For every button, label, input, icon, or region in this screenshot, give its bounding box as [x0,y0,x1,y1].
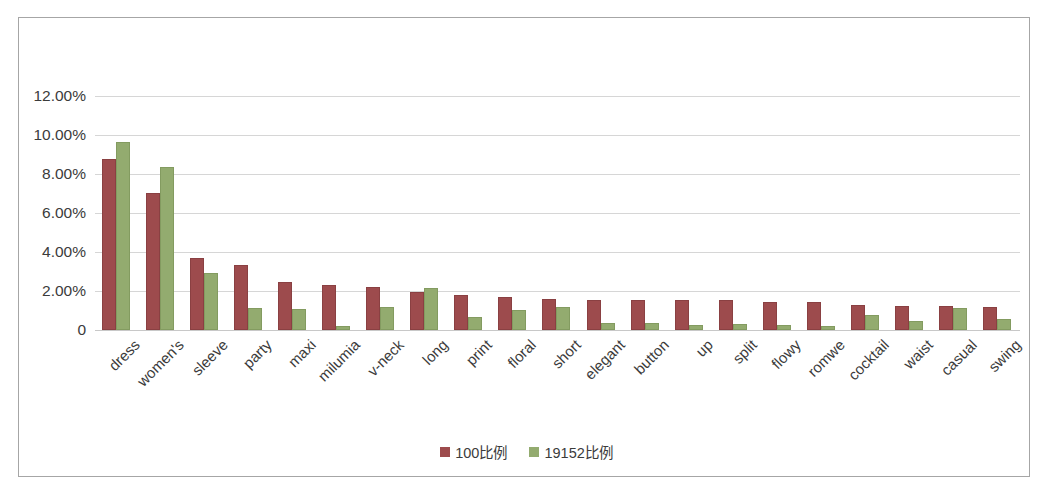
x-axis-tick-label: cocktail [844,336,891,383]
bar[interactable] [556,307,570,330]
bar-group [756,96,800,330]
y-axis-tick-label: 6.00% [20,204,86,222]
x-axis-tick-label: short [548,336,584,372]
bar[interactable] [102,159,116,330]
bar-group [403,96,447,330]
bar-group [800,96,844,330]
x-axis-tick-label: elegant [581,336,628,383]
x-axis-tick-label: v-neck [364,336,407,379]
x-axis-tick-label: casual [937,336,980,379]
x-axis-tick-label: split [729,336,760,367]
x-axis-tick-label: romwe [804,336,848,380]
bar-group [580,96,624,330]
legend-label: 19152比例 [544,441,612,462]
y-axis-tick-label: 4.00% [20,243,86,261]
bar[interactable] [454,295,468,330]
bar[interactable] [645,323,659,330]
legend-item[interactable]: 100比例 [440,441,507,462]
chart-legend: 100比例19152比例 [0,441,1053,462]
bar-group [535,96,579,330]
y-axis: 12.00%10.00%8.00%6.00%4.00%2.00%0 [20,96,86,330]
gridline [95,330,1020,331]
bar[interactable] [689,325,703,331]
x-axis-tick-label: sleeve [188,336,231,379]
y-axis-tick-label: 0 [20,321,86,339]
bar-group [447,96,491,330]
y-axis-tick-label: 8.00% [20,165,86,183]
bar[interactable] [498,297,512,330]
bar[interactable] [116,142,130,330]
bar[interactable] [410,292,424,330]
legend-swatch-icon [529,447,539,457]
bar[interactable] [865,315,879,330]
x-axis-tick-label: milumia [315,336,364,385]
bar[interactable] [997,319,1011,330]
x-axis-tick-label: floral [504,336,539,371]
bar[interactable] [601,323,615,330]
x-axis-tick-label: print [463,336,496,369]
bar[interactable] [322,285,336,330]
bar[interactable] [777,325,791,330]
bar-group [139,96,183,330]
bar[interactable] [953,308,967,330]
bar[interactable] [542,299,556,330]
bar-group [668,96,712,330]
bar-group [888,96,932,330]
y-axis-tick-label: 10.00% [20,126,86,144]
bar[interactable] [292,309,306,331]
x-axis-tick-label: party [240,336,276,372]
bar[interactable] [983,307,997,330]
bar-group [712,96,756,330]
y-axis-tick-label: 2.00% [20,282,86,300]
bar-group [976,96,1020,330]
bar-group [95,96,139,330]
y-axis-tick-label: 12.00% [20,87,86,105]
x-axis-tick-label: swing [985,336,1024,375]
x-axis-tick-label: flowy [768,336,804,372]
x-axis-tick-label: dress [105,336,143,374]
bar[interactable] [336,326,350,330]
bar-group [932,96,976,330]
bar-group [315,96,359,330]
bar[interactable] [631,300,645,330]
bar[interactable] [366,287,380,330]
bar[interactable] [424,288,438,330]
x-axis: dresswomen'ssleevepartymaximilumiav-neck… [95,332,1020,432]
bar[interactable] [939,306,953,330]
x-axis-tick-label: maxi [285,336,319,370]
bar[interactable] [234,265,248,330]
bar[interactable] [278,282,292,330]
bar[interactable] [675,300,689,330]
bar[interactable] [204,273,218,330]
bar[interactable] [719,300,733,330]
bar-group [183,96,227,330]
x-axis-tick-label: up [692,336,716,360]
legend-item[interactable]: 19152比例 [529,441,612,462]
bar[interactable] [380,307,394,330]
bar[interactable] [821,326,835,330]
plot-area [95,96,1020,330]
bar-group [271,96,315,330]
bar[interactable] [733,324,747,330]
bar[interactable] [895,306,909,330]
x-axis-tick-label: long [419,336,451,368]
bar-group [844,96,888,330]
bar[interactable] [909,321,923,330]
bar[interactable] [512,310,526,330]
bar[interactable] [146,193,160,330]
bar[interactable] [807,302,821,330]
x-axis-tick-label: waist [900,336,936,372]
bar[interactable] [160,167,174,330]
bar-group [359,96,403,330]
legend-label: 100比例 [455,441,507,462]
bar[interactable] [248,308,262,330]
bar[interactable] [190,258,204,330]
bar[interactable] [587,300,601,330]
x-axis-tick-label: button [630,336,672,378]
bar[interactable] [468,317,482,330]
bar-group [624,96,668,330]
legend-swatch-icon [440,447,450,457]
bar[interactable] [851,305,865,330]
bar-group [491,96,535,330]
bar[interactable] [763,302,777,330]
